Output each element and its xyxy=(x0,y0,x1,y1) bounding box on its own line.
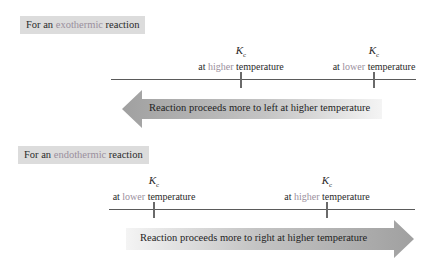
exo-kc-lower-label: Kc at lower temperature xyxy=(333,44,416,73)
exo-kc-higher-label: Kc at higher temperature xyxy=(198,44,284,73)
label-suffix: reaction xyxy=(106,149,142,160)
exo-tick-higher xyxy=(240,72,242,88)
kc-symbol: Kc xyxy=(284,174,370,191)
exo-kc-axis-line xyxy=(111,79,416,80)
endo-right-arrow: Reaction proceeds more to right at highe… xyxy=(126,220,414,258)
label-prefix: For an xyxy=(24,149,54,160)
exo-tick-lower xyxy=(373,72,375,88)
exothermic-section-label: For an exothermic reaction xyxy=(20,16,145,34)
label-prefix: For an xyxy=(26,19,56,30)
endo-kc-higher-label: Kc at higher temperature xyxy=(284,174,370,203)
exo-left-arrow: Reaction proceeds more to left at higher… xyxy=(122,90,382,128)
endo-tick-higher xyxy=(326,202,328,218)
endothermic-section-label: For an endothermic reaction xyxy=(18,146,149,164)
endo-kc-lower-label: Kc at lower temperature xyxy=(113,174,196,203)
kc-symbol: Kc xyxy=(113,174,196,191)
endo-tick-lower xyxy=(153,202,155,218)
kc-symbol: Kc xyxy=(198,44,284,61)
exo-arrow-text: Reaction proceeds more to left at higher… xyxy=(149,102,370,113)
endothermic-highlight: endothermic xyxy=(54,149,106,160)
label-suffix: reaction xyxy=(103,19,139,30)
exothermic-highlight: exothermic xyxy=(56,19,103,30)
endo-arrow-text: Reaction proceeds more to right at highe… xyxy=(140,232,367,243)
kc-symbol: Kc xyxy=(333,44,416,61)
